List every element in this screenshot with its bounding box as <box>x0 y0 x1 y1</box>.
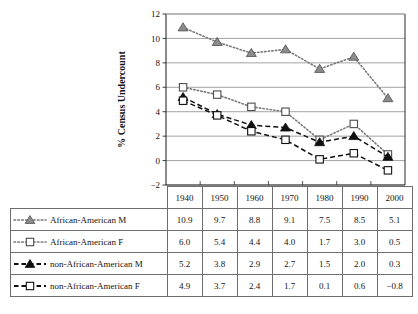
table-cell-value: 0.3 <box>377 253 412 275</box>
data-point-marker <box>281 45 291 53</box>
table-cell-value: 4.9 <box>167 275 202 297</box>
legend-marker-icon <box>13 236 47 248</box>
table-cell-value: 4.0 <box>272 231 307 253</box>
line-chart: 121086420−2% Census Undercount <box>0 0 418 196</box>
table-cell-value: 6.0 <box>167 231 202 253</box>
data-point-marker <box>178 23 188 31</box>
table-row: non-African-American F4.93.72.41.70.10.6… <box>11 275 413 297</box>
table-cell-value: 2.4 <box>237 275 272 297</box>
table-cell-value: 10.9 <box>167 209 202 231</box>
table-cell-value: 0.6 <box>342 275 377 297</box>
data-point-marker <box>214 112 221 119</box>
chart-plot-area: 121086420−2% Census Undercount <box>0 0 418 196</box>
table-row: African-American F6.05.44.44.01.73.00.5 <box>11 231 413 253</box>
y-axis-tick-label: 12 <box>151 9 160 19</box>
table-row: African-American M10.99.78.89.17.58.55.1 <box>11 209 413 231</box>
data-point-marker <box>248 128 255 135</box>
data-point-marker <box>282 108 289 115</box>
y-axis-tick-label: 8 <box>156 58 161 68</box>
data-point-marker <box>350 120 357 127</box>
data-point-marker <box>248 103 255 110</box>
legend-marker-icon <box>13 214 47 226</box>
table-row: non-African-American M5.23.82.92.71.52.0… <box>11 253 413 275</box>
data-point-marker <box>349 52 359 60</box>
y-axis-tick-label: 0 <box>156 156 161 166</box>
data-point-marker <box>214 91 221 98</box>
data-point-marker <box>350 150 357 157</box>
series-data-table: 1940 1950 1960 1970 1980 1990 2000 Afric… <box>10 186 413 297</box>
column-header-year: 2000 <box>377 187 412 209</box>
series-legend-cell: non-African-American M <box>11 253 168 275</box>
series-1 <box>179 84 391 159</box>
data-point-marker <box>384 167 391 174</box>
y-axis-tick-label: 4 <box>156 107 161 117</box>
series-label: non-African-American M <box>47 259 143 269</box>
table-cell-value: 8.8 <box>237 209 272 231</box>
series-legend-cell: African-American M <box>11 209 168 231</box>
table-cell-value: 0.5 <box>377 231 412 253</box>
data-point-marker <box>315 64 325 72</box>
series-0 <box>178 23 393 102</box>
table-cell-value: 1.7 <box>307 231 342 253</box>
column-header-year: 1940 <box>167 187 202 209</box>
legend-marker-shape <box>26 282 33 289</box>
series-label: African-American F <box>47 237 123 247</box>
table-cell-value: 2.9 <box>237 253 272 275</box>
y-axis-tick-label: 2 <box>156 131 161 141</box>
table-cell-value: 0.1 <box>307 275 342 297</box>
series-legend-cell: non-African-American F <box>11 275 168 297</box>
legend-marker-shape <box>26 238 33 245</box>
series-label: non-African-American F <box>47 281 140 291</box>
table-cell-value: 2.7 <box>272 253 307 275</box>
table-cell-value: 9.1 <box>272 209 307 231</box>
data-point-marker <box>179 84 186 91</box>
table-cell-value: 5.1 <box>377 209 412 231</box>
column-header-year: 1970 <box>272 187 307 209</box>
column-header-year: 1990 <box>342 187 377 209</box>
table-cell-value: 1.7 <box>272 275 307 297</box>
y-axis-tick-label: 6 <box>156 82 161 92</box>
column-header-year: 1980 <box>307 187 342 209</box>
table-cell-value: 1.5 <box>307 253 342 275</box>
y-axis-tick-label: 10 <box>151 34 161 44</box>
column-header-year: 1950 <box>202 187 237 209</box>
series-2 <box>178 92 393 160</box>
legend-marker-icon <box>13 258 47 270</box>
table-cell-value: 3.8 <box>202 253 237 275</box>
data-point-marker <box>349 132 359 140</box>
table-cell-value: 5.4 <box>202 231 237 253</box>
table-corner-cell <box>11 187 168 209</box>
table-cell-value: 3.0 <box>342 231 377 253</box>
table-cell-value: 9.7 <box>202 209 237 231</box>
table-cell-value: 4.4 <box>237 231 272 253</box>
table-cell-value: −0.8 <box>377 275 412 297</box>
table-header-row: 1940 1950 1960 1970 1980 1990 2000 <box>11 187 413 209</box>
table-cell-value: 3.7 <box>202 275 237 297</box>
column-header-year: 1960 <box>237 187 272 209</box>
table-cell-value: 8.5 <box>342 209 377 231</box>
data-point-marker <box>282 136 289 143</box>
y-axis-title: % Census Undercount <box>116 51 127 148</box>
data-point-marker <box>179 97 186 104</box>
table-cell-value: 5.2 <box>167 253 202 275</box>
series-legend-cell: African-American F <box>11 231 168 253</box>
table-body: African-American M10.99.78.89.17.58.55.1… <box>11 209 413 297</box>
table-cell-value: 7.5 <box>307 209 342 231</box>
legend-marker-icon <box>13 280 47 292</box>
table-cell-value: 2.0 <box>342 253 377 275</box>
data-point-marker <box>316 156 323 163</box>
series-label: African-American M <box>47 215 126 225</box>
